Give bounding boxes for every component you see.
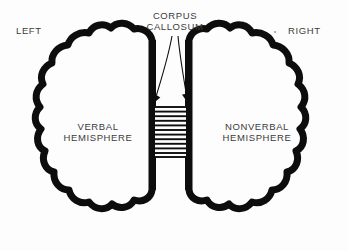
- label-left-side: LEFT: [16, 25, 42, 36]
- stray-dot-mark: [274, 31, 276, 33]
- label-right-side: RIGHT: [288, 25, 321, 36]
- label-corpus-callosum: CORPUS CALLOSUM: [139, 10, 211, 32]
- right-hemisphere-outline: [189, 23, 306, 208]
- arrow-to-left-edge-shaft: [157, 36, 173, 95]
- corpus-callosum-band: [155, 106, 186, 157]
- left-hemisphere-outline: [35, 23, 152, 208]
- label-nonverbal-hemisphere: NONVERBAL HEMISPHERE: [202, 121, 312, 143]
- brain-diagram: LEFT RIGHT CORPUS CALLOSUM VERBAL HEMISP…: [0, 0, 348, 251]
- label-verbal-hemisphere: VERBAL HEMISPHERE: [48, 121, 148, 143]
